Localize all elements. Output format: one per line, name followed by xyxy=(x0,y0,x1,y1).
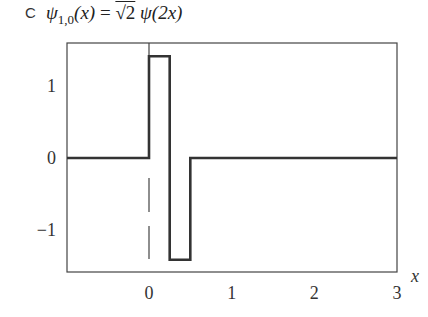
series-line-psi_1_0 xyxy=(67,56,397,260)
y-tick-label: −1 xyxy=(37,220,56,240)
x-tick-label: 2 xyxy=(310,283,319,303)
y-tick-label: 0 xyxy=(47,148,56,168)
x-axis-label: x xyxy=(410,266,419,286)
x-tick-label: 3 xyxy=(393,283,402,303)
x-tick-label: 0 xyxy=(145,283,154,303)
chart-plot: 012310−1x xyxy=(0,0,428,317)
x-tick-label: 1 xyxy=(227,283,236,303)
y-tick-label: 1 xyxy=(47,76,56,96)
